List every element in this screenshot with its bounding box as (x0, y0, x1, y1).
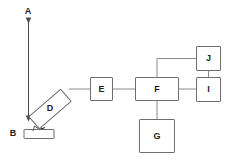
label-g: G (153, 131, 160, 141)
diagram-canvas: A B C D E F G J (0, 0, 227, 163)
label-b: B (10, 128, 17, 138)
label-e: E (98, 84, 104, 94)
label-j: J (206, 53, 211, 63)
label-a: A (25, 6, 32, 16)
beam-a-arrowhead-top (26, 18, 32, 24)
beam-a-group (26, 18, 32, 122)
label-f: F (154, 84, 160, 94)
label-i: I (207, 84, 210, 94)
link-f-to-j (157, 59, 197, 78)
schematic-diagram: A B C D E F G J (0, 0, 227, 163)
label-d: D (47, 103, 54, 113)
